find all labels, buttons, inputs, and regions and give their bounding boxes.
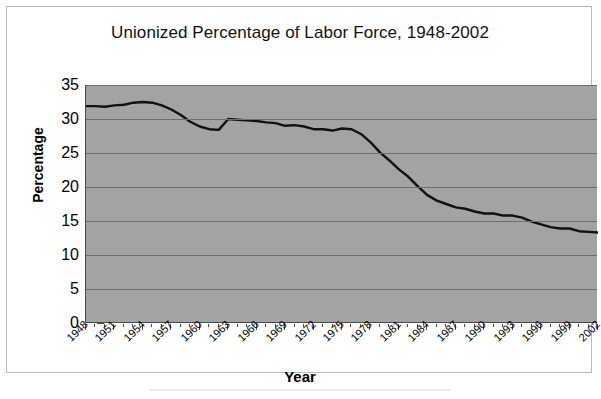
gridline <box>86 153 597 154</box>
x-tick-minor <box>322 324 323 327</box>
x-axis-tick-labels: 1948195119541957196019631966196919721975… <box>7 7 601 67</box>
gridline <box>86 289 597 290</box>
x-axis-title: Year <box>7 368 593 385</box>
x-tick-minor <box>180 324 181 327</box>
x-tick-minor <box>265 324 266 327</box>
gridline <box>86 187 597 188</box>
x-tick-minor <box>350 324 351 327</box>
y-tick-label: 15 <box>33 213 79 229</box>
x-tick-minor <box>578 324 579 327</box>
y-axis-tick-labels: 35302520151050 <box>27 77 79 331</box>
x-tick-minor <box>123 324 124 327</box>
data-series-line <box>86 85 598 323</box>
y-tick-label: 30 <box>33 111 79 127</box>
x-tick-minor <box>208 324 209 327</box>
x-tick-minor <box>436 324 437 327</box>
x-tick-minor <box>237 324 238 327</box>
gridline <box>86 221 597 222</box>
x-tick-minor <box>151 324 152 327</box>
y-tick-label: 10 <box>33 247 79 263</box>
scan-artifact <box>150 389 450 391</box>
y-tick-label: 5 <box>33 281 79 297</box>
x-tick-minor <box>550 324 551 327</box>
x-tick-minor <box>379 324 380 327</box>
plot-area <box>85 85 597 323</box>
x-tick-minor <box>521 324 522 327</box>
chart-frame: Unionized Percentage of Labor Force, 194… <box>6 6 592 373</box>
y-tick-label: 35 <box>33 77 79 93</box>
x-tick-minor <box>294 324 295 327</box>
x-tick-minor <box>407 324 408 327</box>
x-tick-minor <box>464 324 465 327</box>
y-tick-label: 25 <box>33 145 79 161</box>
gridline <box>86 119 597 120</box>
gridline <box>86 255 597 256</box>
series-line <box>86 102 598 233</box>
y-tick-label: 20 <box>33 179 79 195</box>
x-tick-minor <box>493 324 494 327</box>
gridline <box>86 85 597 86</box>
x-tick-minor <box>94 324 95 327</box>
